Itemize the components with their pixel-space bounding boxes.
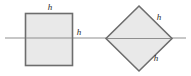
square-shape (26, 14, 73, 66)
square-top-label: h (48, 2, 53, 12)
figure-canvas: h h h h (0, 0, 191, 76)
geometry-figure: h h h h (0, 0, 191, 76)
square-right-label: h (77, 27, 82, 37)
diamond-lower-right-label: h (154, 53, 159, 63)
diamond-upper-right-label: h (157, 12, 162, 22)
